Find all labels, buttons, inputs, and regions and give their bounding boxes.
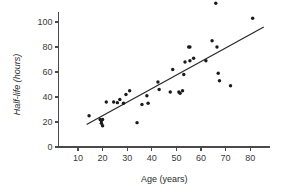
data-point: [178, 92, 181, 95]
y-axis-title: Half-life (hours): [12, 54, 22, 116]
data-point: [188, 59, 191, 62]
data-point: [124, 93, 127, 96]
data-point: [229, 84, 232, 87]
data-point: [122, 102, 125, 105]
data-point: [183, 60, 186, 63]
data-point: [181, 89, 184, 92]
x-tick-label-60: 60: [196, 153, 206, 163]
data-point: [128, 89, 131, 92]
data-point: [210, 39, 213, 42]
x-tick-label-80: 80: [245, 153, 255, 163]
data-point: [101, 124, 104, 127]
data-point: [118, 98, 121, 101]
y-tick-label-20: 20: [42, 117, 52, 127]
data-point: [169, 90, 172, 93]
data-point: [188, 45, 191, 48]
regression-line: [87, 27, 264, 125]
y-tick-label-40: 40: [42, 92, 52, 102]
data-point: [157, 88, 160, 91]
data-point: [192, 57, 195, 60]
data-point: [101, 118, 104, 121]
data-point: [214, 2, 217, 5]
y-tick-label-60: 60: [42, 67, 52, 77]
x-tick-label-40: 40: [147, 153, 157, 163]
data-point: [135, 121, 138, 124]
y-tick-label-80: 80: [42, 42, 52, 52]
data-point: [112, 100, 115, 103]
scatter-plot-figure: 0204060801001020304050607080Age (years)H…: [0, 0, 281, 192]
data-point: [87, 114, 90, 117]
data-point: [217, 72, 220, 75]
data-point: [140, 103, 143, 106]
y-tick-label-100: 100: [37, 17, 52, 27]
data-point: [145, 94, 148, 97]
data-point: [105, 100, 108, 103]
chart-canvas: 0204060801001020304050607080Age (years)H…: [0, 0, 281, 192]
data-point: [116, 101, 119, 104]
x-tick-label-30: 30: [122, 153, 132, 163]
data-point: [218, 79, 221, 82]
data-point: [251, 17, 254, 20]
data-point: [182, 73, 185, 76]
data-point: [204, 59, 207, 62]
x-tick-label-70: 70: [221, 153, 231, 163]
data-point: [156, 80, 159, 83]
x-tick-label-20: 20: [98, 153, 108, 163]
data-point: [171, 68, 174, 71]
x-tick-label-10: 10: [73, 153, 83, 163]
data-point: [215, 45, 218, 48]
x-axis-title: Age (years): [141, 174, 188, 184]
y-tick-label-0: 0: [47, 142, 52, 152]
x-tick-label-50: 50: [171, 153, 181, 163]
data-point: [146, 102, 149, 105]
